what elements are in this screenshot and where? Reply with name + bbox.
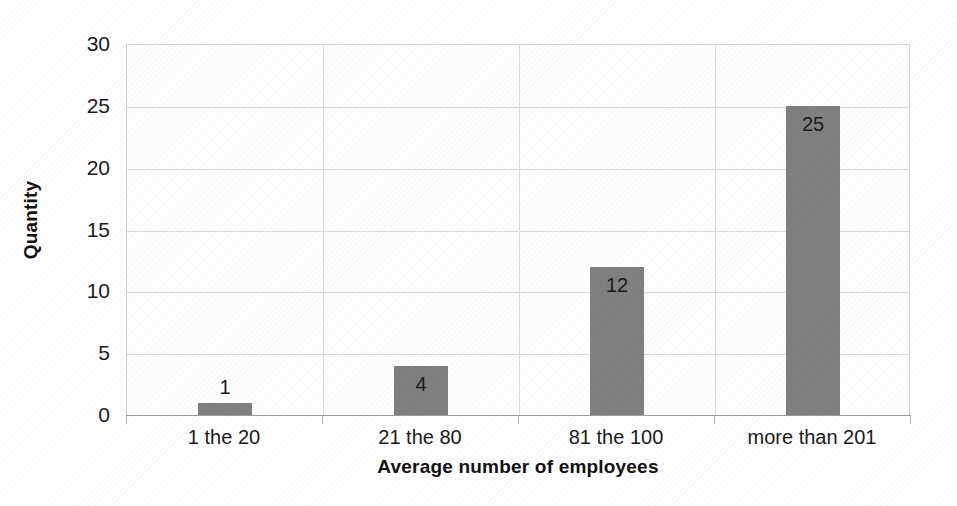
- category-divider-2: [519, 45, 520, 415]
- x-axis-tick-label-3: more than 201: [748, 426, 877, 449]
- x-axis-tick-label-0: 1 the 20: [188, 426, 260, 449]
- plot-inner: 141225: [127, 45, 909, 415]
- bar-value-label-0: 1: [219, 376, 230, 399]
- bar-value-label-3: 25: [802, 113, 824, 136]
- y-axis-title: Quantity: [20, 145, 60, 295]
- x-axis-tick-labels: 1 the 2021 the 8081 the 100more than 201: [126, 426, 910, 460]
- x-axis-tick-mark-3: [714, 416, 715, 424]
- y-axis-tick-25: 25: [87, 94, 110, 118]
- x-axis-tick-mark-4: [910, 416, 911, 424]
- x-axis-tick-label-1: 21 the 80: [378, 426, 461, 449]
- x-axis-tick-mark-2: [518, 416, 519, 424]
- x-axis-tick-mark-1: [322, 416, 323, 424]
- bar-0[interactable]: [198, 403, 252, 415]
- category-divider-1: [323, 45, 324, 415]
- plot-area: 141225: [126, 44, 910, 415]
- y-axis-tick-20: 20: [87, 156, 110, 180]
- bar-value-label-2: 12: [606, 274, 628, 297]
- y-axis-tick-30: 30: [87, 32, 110, 56]
- y-axis-tick-labels: 051015202530: [64, 44, 120, 415]
- x-axis-title: Average number of employees: [126, 456, 910, 478]
- bar-3[interactable]: [786, 106, 840, 415]
- y-axis-tick-10: 10: [87, 279, 110, 303]
- x-axis-tick-mark-0: [126, 416, 127, 424]
- bar-chart: Quantity 051015202530 141225 1 the 2021 …: [0, 0, 957, 506]
- y-axis-tick-15: 15: [87, 218, 110, 242]
- y-axis-tick-0: 0: [98, 403, 110, 427]
- x-axis-tick-label-2: 81 the 100: [569, 426, 664, 449]
- bar-value-label-1: 4: [415, 373, 426, 396]
- y-axis-tick-5: 5: [98, 341, 110, 365]
- category-divider-3: [715, 45, 716, 415]
